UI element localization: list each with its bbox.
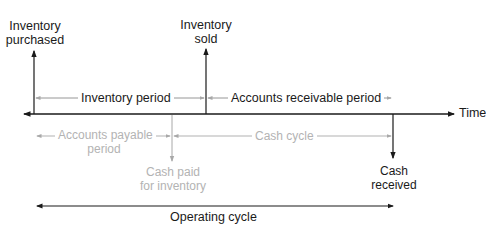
label-line: purchased	[2, 33, 68, 47]
cash-received-label: Cash received	[366, 164, 422, 192]
label-line: Cash paid	[135, 165, 211, 179]
operating-cycle-label: Operating cycle	[170, 210, 257, 224]
label-line: received	[366, 178, 422, 192]
label-line: Inventory	[176, 18, 236, 32]
cash-cycle-label: Cash cycle	[252, 129, 317, 143]
inventory-sold-label: Inventory sold	[176, 18, 236, 46]
label-line: sold	[176, 32, 236, 46]
label-line: Inventory	[2, 19, 68, 33]
inventory-purchased-label: Inventory purchased	[2, 19, 68, 47]
time-axis-label: Time	[459, 106, 486, 120]
label-line: for inventory	[135, 179, 211, 193]
label-line: Cash	[366, 164, 422, 178]
cash-paid-label: Cash paid for inventory	[135, 165, 211, 193]
accounts-receivable-period-label: Accounts receivable period	[228, 91, 384, 105]
inventory-period-label: Inventory period	[78, 91, 174, 105]
label-line: Accounts payable	[55, 128, 156, 142]
label-line: period	[55, 142, 153, 156]
accounts-payable-period-label: Accounts payable period	[55, 128, 153, 156]
